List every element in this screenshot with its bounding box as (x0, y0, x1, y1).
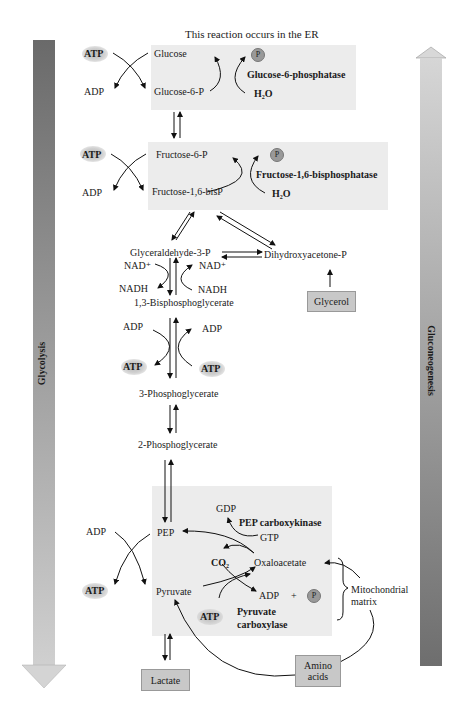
fructose-bisphosphatase-label: Fructose-1,6-bisphosphatase (256, 170, 377, 180)
mito-line1: Mitochondrial (351, 585, 408, 595)
3pg-label: 3-Phosphoglycerate (139, 389, 218, 399)
lactate-node: Lactate (141, 669, 190, 691)
adp-label: ADP (82, 188, 102, 198)
nad-left-label: NAD⁺ (124, 261, 151, 271)
nadh-right-label: NADH (198, 285, 227, 295)
atp-label: ATP (85, 586, 104, 596)
pep-label: PEP (157, 528, 174, 538)
nadh-left-label: NADH (119, 284, 148, 294)
water-label: H₂O (272, 189, 291, 199)
nad-right-label: NAD⁺ (199, 261, 226, 271)
atp-label: ATP (200, 612, 219, 622)
pyruvate-label: Pyruvate (156, 587, 192, 597)
adp-label: ADP (84, 87, 104, 97)
2pg-label: 2-Phosphoglycerate (138, 440, 217, 450)
atp-label: ATP (84, 49, 103, 59)
adp-label: ADP (86, 527, 106, 537)
phosphate-icon: P (307, 589, 321, 603)
gdp-label: GDP (216, 504, 236, 514)
atp-label: ATP (82, 150, 101, 160)
bpg-label: 1,3-Bisphosphoglycerate (134, 298, 234, 308)
water-label: H₂O (254, 89, 273, 99)
glycerol-node: Glycerol (307, 291, 356, 312)
oxaloacetate-label: Oxaloacetate (254, 558, 306, 568)
pyruvate-carboxylase-line1: Pyruvate (237, 607, 276, 617)
glucose-6-phosphatase-label: Glucose-6-phosphatase (247, 70, 345, 80)
amino-acids-node: Amino acids (295, 655, 341, 687)
dhap-label: Dihydroxyacetone-P (264, 250, 347, 260)
fructose-6p-label: Fructose-6-P (156, 150, 208, 160)
glucose-6p-label: Glucose-6-P (154, 87, 204, 97)
adp2-label: ADP (259, 591, 279, 601)
phosphate-icon: P (251, 48, 265, 62)
pathway-arrows (0, 0, 451, 722)
glucose-label: Glucose (154, 49, 187, 59)
co2-label: CO₂ (211, 558, 229, 568)
pepck-label: PEP carboxykinase (239, 518, 322, 528)
atp-right-label: ATP (201, 364, 220, 374)
amino-line1: Amino (304, 660, 332, 671)
gap-label: Glyceraldehyde-3-P (130, 248, 211, 258)
pyruvate-carboxylase-line2: carboxylase (237, 620, 288, 630)
atp-left-label: ATP (123, 362, 142, 372)
gtp-label: GTP (260, 533, 279, 543)
phosphate-icon: P (270, 148, 284, 162)
plus-label: + (291, 591, 297, 601)
fructose-16bisp-label: Fructose-1,6-bisP (152, 187, 223, 197)
adp-right-label: ADP (202, 324, 222, 334)
mito-line2: matrix (351, 597, 377, 607)
adp-left-label: ADP (123, 322, 143, 332)
amino-line2: acids (308, 671, 329, 682)
